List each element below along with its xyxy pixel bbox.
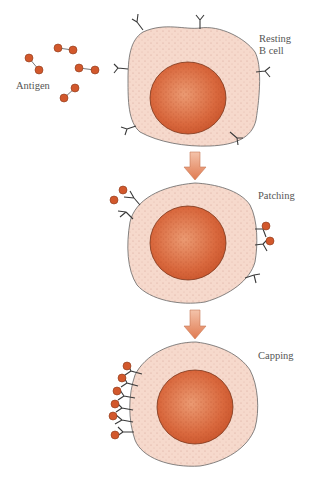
capping-label: Capping <box>258 350 294 362</box>
antigen-molecule <box>75 64 99 74</box>
resting-b-cell-label: Resting B cell <box>259 33 291 57</box>
antigen-molecule <box>60 84 79 102</box>
free-antigens <box>25 44 99 102</box>
antigen-molecule <box>25 54 43 74</box>
resting-b-cell <box>114 14 270 146</box>
b-cell-capping-diagram: Antigen Resting B cell Patching Capping <box>0 0 315 480</box>
arrow-patching-to-capping <box>184 310 206 339</box>
diagram-canvas <box>0 0 315 480</box>
capping-cell <box>109 342 258 466</box>
resting-label-line2: B cell <box>259 45 291 57</box>
patching-cell <box>110 183 274 303</box>
arrow-resting-to-patching <box>184 152 206 180</box>
patching-label: Patching <box>258 190 295 202</box>
antigen-molecule <box>54 44 77 54</box>
resting-label-line1: Resting <box>259 33 291 45</box>
antigen-label: Antigen <box>16 80 50 92</box>
